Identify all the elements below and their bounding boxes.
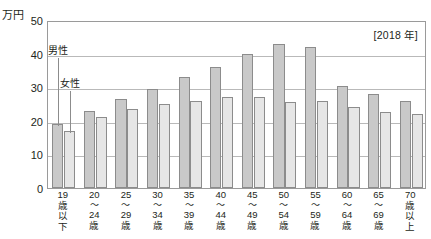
x-category-label: 35〜39歳	[173, 190, 205, 231]
x-category-label: 20〜24歳	[79, 190, 111, 231]
bar-female	[222, 97, 233, 188]
bar-group	[337, 22, 360, 188]
x-category-label-line: 歳	[363, 221, 395, 232]
x-category-label-line: 25	[110, 190, 142, 201]
x-category-label-line: 歳	[142, 221, 174, 232]
annotation-female-leader-line	[70, 91, 71, 133]
x-category-label-line: 19	[47, 190, 79, 201]
x-category-label: 65〜69歳	[363, 190, 395, 231]
bar-group	[179, 22, 202, 188]
bars-layer	[48, 22, 425, 188]
x-category-label: 25〜29歳	[110, 190, 142, 231]
x-category-label-line: 歳	[331, 221, 363, 232]
bar-female	[285, 102, 296, 188]
x-category-label: 70歳以上	[394, 190, 426, 232]
bar-male	[52, 124, 63, 188]
bar-female	[127, 109, 138, 188]
x-category-label-line: 54	[268, 210, 300, 221]
x-category-label-line: 歳	[268, 221, 300, 232]
bar-female	[190, 101, 201, 188]
y-tick-label: 10	[19, 150, 43, 161]
bar-male	[115, 99, 126, 188]
x-category-label-line: 64	[331, 210, 363, 221]
x-category-label-line: 34	[142, 210, 174, 221]
bar-male	[210, 67, 221, 188]
x-category-label: 19歳以下	[47, 190, 79, 232]
bar-male	[337, 86, 348, 188]
x-category-label: 40〜44歳	[205, 190, 237, 231]
x-category-label: 50〜54歳	[268, 190, 300, 231]
bar-female	[64, 131, 75, 188]
x-category-label-line: 歳	[110, 221, 142, 232]
bar-group	[273, 22, 296, 188]
x-category-label-line: 30	[142, 190, 174, 201]
bar-group	[400, 22, 423, 188]
bar-group	[147, 22, 170, 188]
bar-group	[368, 22, 391, 188]
x-category-label-line: 24	[79, 210, 111, 221]
x-category-label: 60〜64歳	[331, 190, 363, 231]
x-category-label-line: 20	[79, 190, 111, 201]
bar-male	[305, 47, 316, 188]
y-tick-label: 30	[19, 83, 43, 94]
bar-group	[305, 22, 328, 188]
y-axis-tick-labels: 01020304050	[17, 21, 43, 189]
bar-male	[368, 94, 379, 188]
bar-group	[242, 22, 265, 188]
x-category-label-line: 上	[394, 222, 426, 233]
x-category-label-line: 39	[173, 210, 205, 221]
x-category-label: 30〜34歳	[142, 190, 174, 231]
x-category-label-line: 60	[331, 190, 363, 201]
x-category-label-line: 歳	[173, 221, 205, 232]
bar-female	[317, 101, 328, 188]
x-category-label-line: 下	[47, 222, 79, 233]
x-axis-category-labels: 19歳以下20〜24歳25〜29歳30〜34歳35〜39歳40〜44歳45〜49…	[47, 190, 426, 239]
bar-female	[348, 107, 359, 188]
x-category-label-line: 40	[205, 190, 237, 201]
x-category-label-line: 50	[268, 190, 300, 201]
x-category-label-line: 以	[394, 211, 426, 222]
annotation-male-leader-line	[58, 58, 59, 126]
bar-male	[147, 89, 158, 188]
y-tick-label: 20	[19, 117, 43, 128]
bar-male	[242, 54, 253, 188]
x-category-label: 55〜59歳	[300, 190, 332, 231]
bar-group	[115, 22, 138, 188]
x-category-label: 45〜49歳	[237, 190, 269, 231]
bar-group	[84, 22, 107, 188]
bar-male	[273, 44, 284, 188]
x-category-label-line: 歳	[300, 221, 332, 232]
x-category-label-line: 29	[110, 210, 142, 221]
bar-female	[254, 97, 265, 188]
bar-female	[380, 112, 391, 188]
x-category-label-line: 70	[394, 190, 426, 201]
x-category-label-line: 歳	[237, 221, 269, 232]
bar-chart: 万円 01020304050 [2018 年] 男性女性 19歳以下20〜24歳…	[0, 0, 431, 239]
x-category-label-line: 歳	[79, 221, 111, 232]
bar-male	[84, 111, 95, 188]
x-category-label-line: 65	[363, 190, 395, 201]
y-tick-label: 0	[19, 184, 43, 195]
bar-male	[179, 77, 190, 188]
x-category-label-line: 44	[205, 210, 237, 221]
plot-area: [2018 年] 男性女性	[47, 21, 426, 189]
x-category-label-line: 35	[173, 190, 205, 201]
annotation-female: 女性	[60, 78, 80, 89]
bar-female	[96, 117, 107, 188]
x-category-label-line: 59	[300, 210, 332, 221]
y-tick-label: 40	[19, 50, 43, 61]
x-category-label-line: 55	[300, 190, 332, 201]
bar-group	[210, 22, 233, 188]
annotation-male: 男性	[48, 45, 68, 56]
bar-male	[400, 101, 411, 188]
x-category-label-line: 49	[237, 210, 269, 221]
x-category-label-line: 歳	[205, 221, 237, 232]
x-category-label-line: 以	[47, 211, 79, 222]
x-category-label-line: 69	[363, 210, 395, 221]
bar-female	[412, 114, 423, 188]
x-category-label-line: 45	[237, 190, 269, 201]
bar-female	[159, 104, 170, 188]
y-tick-label: 50	[19, 16, 43, 27]
